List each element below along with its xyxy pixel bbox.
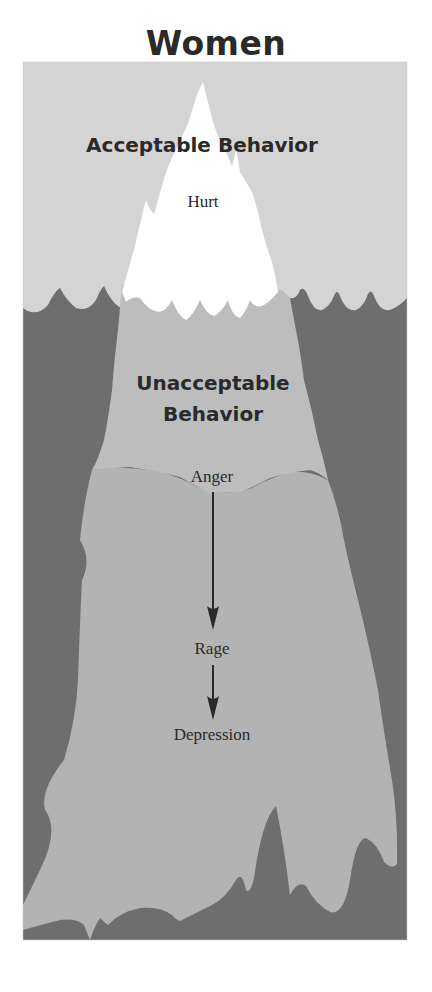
emotion-depression: Depression (174, 725, 251, 744)
emotion-hurt: Hurt (187, 192, 218, 211)
below-water-heading-line2: Behavior (163, 402, 263, 426)
above-water-heading: Acceptable Behavior (86, 133, 318, 157)
iceberg-diagram: Acceptable Behavior Hurt Unacceptable Be… (0, 0, 432, 992)
emotion-anger: Anger (191, 467, 234, 486)
emotion-rage: Rage (195, 639, 230, 658)
below-water-heading-line1: Unacceptable (136, 371, 289, 395)
